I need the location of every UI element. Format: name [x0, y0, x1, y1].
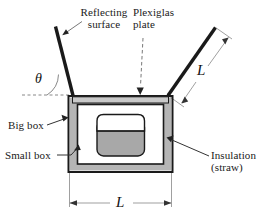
label-insulation: Insulation (straw): [211, 149, 256, 173]
label-small-box: Small box: [5, 149, 51, 161]
leader-insulation: [172, 140, 209, 156]
label-insulation-line1: Insulation: [211, 149, 256, 161]
theta-arc: [47, 75, 59, 96]
label-insulation-line2: (straw): [211, 161, 256, 173]
solar-cooker-diagram: Reflecting surface Plexiglas plate Big b…: [0, 0, 272, 220]
cooking-pot-lid: [97, 115, 145, 132]
dim-arrow-bottom-right: [164, 200, 172, 206]
dim-arrow-right-top: [222, 38, 229, 45]
label-reflecting-surface: Reflecting surface: [68, 6, 140, 30]
leader-big-box: [47, 119, 64, 125]
label-big-box: Big box: [8, 119, 44, 131]
label-reflecting-surface-line2: surface: [68, 18, 140, 30]
leader-arrow-big-box: [62, 115, 69, 122]
leader-arrow-reflecting-surface: [62, 29, 69, 35]
dim-arrow-right-bottom: [182, 97, 189, 104]
right-reflector: [168, 28, 216, 96]
plexiglas-plate-overlay: [73, 97, 169, 103]
label-plexiglas-plate: Plexiglas plate: [133, 6, 174, 30]
dim-arrow-bottom-left: [70, 200, 78, 206]
label-length-right: L: [197, 62, 205, 79]
dim-extension-top-right: [216, 28, 233, 40]
label-theta-angle: θ: [35, 71, 42, 87]
label-plexiglas-plate-line2: plate: [133, 18, 174, 30]
label-reflecting-surface-line1: Reflecting: [68, 6, 140, 18]
label-length-bottom: L: [116, 194, 124, 211]
diagram-canvas: [0, 0, 272, 220]
left-reflector: [56, 27, 74, 96]
leader-arrow-plexiglas-plate: [137, 87, 144, 95]
leader-plexiglas-plate: [141, 38, 144, 86]
label-plexiglas-plate-line1: Plexiglas: [133, 6, 174, 18]
